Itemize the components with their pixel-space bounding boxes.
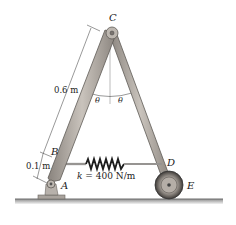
label-point-c: C bbox=[109, 13, 117, 23]
dimension-lower-length: 0.1 m bbox=[26, 162, 50, 171]
pin-a bbox=[47, 180, 55, 188]
spring-equals: = bbox=[85, 171, 93, 181]
label-point-e: E bbox=[187, 181, 194, 191]
dimension-upper-length: 0.6 m bbox=[54, 86, 78, 95]
frame-diagram bbox=[0, 0, 236, 225]
spring-constant-label: k = 400 N/m bbox=[77, 172, 135, 181]
spring-value: 400 N/m bbox=[96, 171, 135, 181]
spring bbox=[58, 159, 162, 169]
label-point-a: A bbox=[61, 181, 68, 191]
ground bbox=[15, 199, 223, 204]
angle-theta-left: θ bbox=[95, 97, 100, 105]
label-point-b: B bbox=[51, 147, 58, 157]
spring-k-symbol: k bbox=[77, 171, 82, 181]
wheel-e bbox=[155, 171, 183, 199]
label-point-d: D bbox=[167, 158, 175, 168]
pin-c bbox=[106, 27, 118, 39]
angle-theta-right: θ bbox=[118, 97, 123, 105]
